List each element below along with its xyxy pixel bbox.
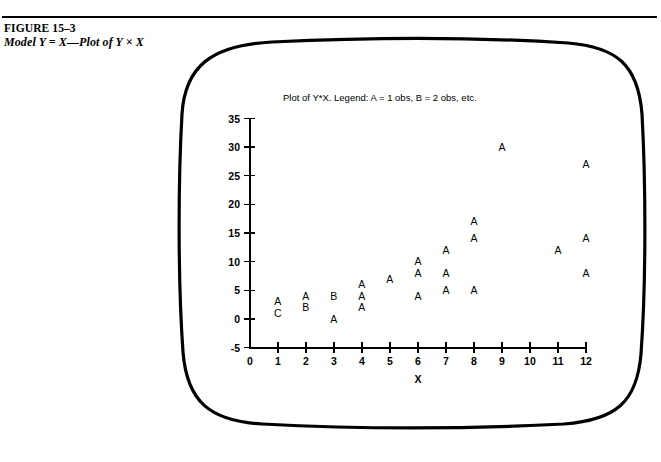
data-point-marker: A xyxy=(299,291,313,302)
x-axis-tick-mark xyxy=(417,342,418,353)
y-axis-tick-mark xyxy=(244,318,255,319)
data-point-marker: A xyxy=(495,142,509,153)
data-point-marker: A xyxy=(411,268,425,279)
data-point-marker: A xyxy=(439,285,453,296)
x-axis-tick-label: 10 xyxy=(518,355,542,367)
x-axis-tick-label: 9 xyxy=(490,355,514,367)
x-axis-tick-mark xyxy=(277,342,278,353)
x-axis-tick-mark xyxy=(361,342,362,353)
y-axis-tick-label: 35 xyxy=(214,113,240,125)
x-axis-tick-label: 0 xyxy=(238,355,262,367)
data-point-marker: B xyxy=(327,291,341,302)
data-point-marker: A xyxy=(383,274,397,285)
data-point-marker: A xyxy=(327,314,341,325)
x-axis-tick-mark xyxy=(585,342,586,353)
data-point-marker: A xyxy=(411,256,425,267)
y-axis-tick-mark xyxy=(244,290,255,291)
y-axis-tick-label: 10 xyxy=(214,256,240,268)
x-axis-tick-mark xyxy=(557,342,558,353)
y-axis-tick-label: 20 xyxy=(214,198,240,210)
data-point-marker: A xyxy=(579,233,593,244)
data-point-marker: A xyxy=(467,285,481,296)
y-axis-tick-mark xyxy=(244,118,255,119)
data-point-marker: A xyxy=(355,302,369,313)
x-axis-tick-mark xyxy=(445,342,446,353)
chart-title: Plot of Y*X. Legend: A = 1 obs, B = 2 ob… xyxy=(283,92,477,103)
x-axis-tick-label: 12 xyxy=(574,355,598,367)
y-axis-tick-mark xyxy=(244,232,255,233)
y-axis-tick-label: -5 xyxy=(214,342,240,354)
data-point-marker: A xyxy=(467,233,481,244)
data-point-marker: B xyxy=(299,302,313,313)
data-point-marker: A xyxy=(579,268,593,279)
data-point-marker: A xyxy=(467,216,481,227)
y-axis-tick-mark xyxy=(244,146,255,147)
x-axis-tick-mark xyxy=(305,342,306,353)
data-point-marker: A xyxy=(355,291,369,302)
y-axis-tick-label: 5 xyxy=(214,284,240,296)
y-axis-tick-label: 0 xyxy=(214,313,240,325)
x-axis-title: X xyxy=(406,373,430,385)
y-axis-tick-label: 30 xyxy=(214,141,240,153)
x-axis-tick-mark xyxy=(333,342,334,353)
x-axis-tick-label: 3 xyxy=(322,355,346,367)
x-axis-tick-mark xyxy=(389,342,390,353)
y-axis-tick-label: 25 xyxy=(214,170,240,182)
x-axis-tick-mark xyxy=(473,342,474,353)
caption-rule xyxy=(2,16,657,18)
data-point-marker: A xyxy=(411,291,425,302)
y-axis-tick-mark xyxy=(244,347,255,348)
x-axis-tick-label: 1 xyxy=(266,355,290,367)
data-point-marker: A xyxy=(271,296,285,307)
x-axis-tick-label: 2 xyxy=(294,355,318,367)
y-axis-tick-mark xyxy=(244,261,255,262)
x-axis-tick-label: 8 xyxy=(462,355,486,367)
y-axis-tick-label: 15 xyxy=(214,227,240,239)
x-axis-tick-label: 11 xyxy=(546,355,570,367)
data-point-marker: A xyxy=(579,159,593,170)
data-point-marker: A xyxy=(439,268,453,279)
data-point-marker: C xyxy=(271,308,285,319)
x-axis-tick-label: 6 xyxy=(406,355,430,367)
data-point-marker: A xyxy=(551,245,565,256)
x-axis-tick-label: 5 xyxy=(378,355,402,367)
x-axis-tick-mark xyxy=(501,342,502,353)
y-axis-tick-mark xyxy=(244,175,255,176)
x-axis-tick-label: 7 xyxy=(434,355,458,367)
x-axis-tick-mark xyxy=(529,342,530,353)
data-point-marker: A xyxy=(439,245,453,256)
data-point-marker: A xyxy=(355,279,369,290)
x-axis-tick-label: 4 xyxy=(350,355,374,367)
y-axis-tick-mark xyxy=(244,204,255,205)
figure-number: FIGURE 15–3 xyxy=(4,21,284,35)
